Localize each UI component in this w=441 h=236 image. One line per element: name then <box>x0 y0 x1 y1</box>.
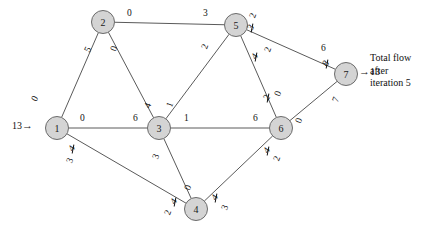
network-graph: 1234567 <box>0 0 441 236</box>
sink-arrow-icon: → <box>359 65 370 77</box>
source-inflow-value: 13 <box>12 120 22 131</box>
edge-label-e13-at3: 6 <box>133 114 138 124</box>
node-label-6: 6 <box>279 123 284 134</box>
node-label-3: 3 <box>157 123 162 134</box>
caption-line-3: iteration 5 <box>370 77 440 90</box>
edge-1-4 <box>67 134 186 203</box>
figure-caption: Total flow after iteration 5 <box>370 52 440 90</box>
source-inflow-label: 13→ <box>12 120 33 131</box>
edge-label-value: 1 <box>184 113 189 123</box>
node-label-2: 2 <box>101 17 106 28</box>
edges-group <box>62 22 338 203</box>
source-arrow-icon: → <box>22 119 33 131</box>
node-label-5: 5 <box>234 20 239 31</box>
node-label-4: 4 <box>194 204 199 215</box>
edge-3-5 <box>166 34 229 119</box>
edge-label-e57-at7-new: 6 <box>321 44 326 54</box>
edge-label-value: 6 <box>253 113 258 123</box>
edge-label-value: 0 <box>127 8 132 18</box>
max-flow-network-figure: 1234567 05040306121630434232204286434207… <box>0 0 441 236</box>
edge-label-value: 6 <box>321 43 326 53</box>
edge-2-5 <box>114 22 224 24</box>
node-label-7: 7 <box>344 69 349 80</box>
edge-1-2 <box>62 33 99 118</box>
edge-6-7 <box>290 81 337 120</box>
edge-label-value: 0 <box>80 113 85 123</box>
caption-line-2: after <box>370 65 440 78</box>
edge-label-e25-at5: 3 <box>203 9 208 19</box>
edge-label-value: 6 <box>133 113 138 123</box>
edge-label-e13-at1: 0 <box>80 114 85 124</box>
edge-label-e25-at2: 0 <box>127 9 132 19</box>
edge-label-e36-at3: 1 <box>184 114 189 124</box>
node-label-1: 1 <box>55 123 60 134</box>
caption-line-1: Total flow <box>370 52 440 65</box>
edge-label-value: 3 <box>203 8 208 18</box>
edge-label-e36-at6: 6 <box>253 114 258 124</box>
